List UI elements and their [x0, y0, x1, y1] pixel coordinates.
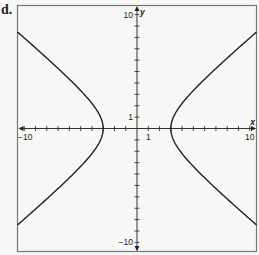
- y-tick-label: −10: [119, 237, 134, 247]
- y-tick-label: 10: [124, 10, 134, 20]
- x-axis-arrow-left: [19, 126, 24, 131]
- x-axis-arrow-right: [251, 126, 256, 131]
- y-axis-arrow-up: [135, 6, 140, 11]
- y-axis-arrow-down: [135, 246, 140, 251]
- x-tick-label: 1: [146, 132, 151, 142]
- y-axis-label: y: [139, 7, 146, 17]
- x-axis-label: x: [249, 117, 256, 127]
- x-tick-label: −10: [18, 132, 33, 142]
- hyperbola-chart: −10110101−10xy: [0, 0, 259, 255]
- y-tick-label: 1: [128, 112, 133, 122]
- x-tick-label: 10: [245, 132, 255, 142]
